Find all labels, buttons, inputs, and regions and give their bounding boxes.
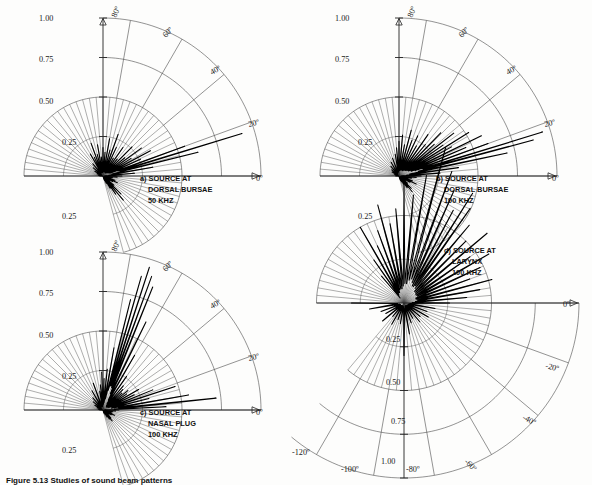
panel-a-caption-line1: a) SOURCE AT — [140, 174, 192, 183]
panel-b-rtick-1.00: 1.00 — [335, 14, 349, 23]
panel-d-caption-line2: LARYNX — [452, 257, 482, 266]
panel-d-rtick-1.00: 1.00 — [381, 457, 395, 466]
panel-d-rtick-0.25: 0.25 — [386, 335, 400, 344]
panel-b-rtick-0.50: 0.50 — [335, 97, 349, 106]
panel-c-caption-line1: c) SOURCE AT — [140, 408, 192, 417]
panel-b-caption-line1: b) SOURCE AT — [436, 174, 488, 183]
panel-a-caption-line3: 50 KHZ — [148, 196, 174, 205]
panel-b-rtick-0.25: 0.25 — [358, 138, 372, 147]
panel-c-rtick-0.25-lower: 0.25 — [62, 446, 76, 455]
panel-a-caption-line2: DORSAL BURSAE — [148, 185, 212, 194]
panel-d-atick-m120: -120º — [292, 448, 310, 457]
panel-c-caption-line2: NASAL PLUG — [148, 419, 196, 428]
panel-d-atick-0: 0º — [563, 300, 570, 309]
panel-c-rtick-1.00: 1.00 — [39, 248, 53, 257]
panel-b-rtick-0.75: 0.75 — [335, 55, 349, 64]
panel-a-atick-0: 0º — [256, 174, 263, 183]
panel-a-rtick-0.25: 0.25 — [62, 138, 76, 147]
panel-c-caption-line3: 100 KHZ — [148, 430, 178, 439]
panel-d-rtick-0.75: 0.75 — [391, 417, 405, 426]
panel-c-rtick-0.25: 0.25 — [62, 372, 76, 381]
panel-c-rtick-0.50: 0.50 — [39, 331, 53, 340]
figure-background — [0, 0, 592, 485]
figure-beam-patterns: 1.00 0.75 0.50 0.25 0.25 0º 20º 40º 60º … — [0, 0, 592, 485]
panel-d-caption-line3: 100 KHZ — [452, 268, 482, 277]
panel-a-rtick-0.50: 0.50 — [39, 97, 53, 106]
panel-d-atick-m100: -100º — [341, 465, 359, 474]
panel-d-atick-m80: -80º — [406, 465, 420, 474]
panel-c-rtick-0.75: 0.75 — [39, 289, 53, 298]
panel-c-atick-0: 0º — [256, 408, 263, 417]
figure-caption: Figure 5.13 Studies of sound beam patter… — [6, 476, 173, 485]
panel-d-caption-line1: d) SOURCE AT — [444, 246, 496, 255]
panel-a-rtick-1.00: 1.00 — [39, 14, 53, 23]
panel-a-rtick-0.25-lower: 0.25 — [62, 212, 76, 221]
panel-a-rtick-0.75: 0.75 — [39, 55, 53, 64]
panel-d-rtick-0.50: 0.50 — [386, 378, 400, 387]
panel-b-atick-0: 0º — [552, 174, 559, 183]
panel-b-rtick-0.25-lower: 0.25 — [358, 212, 372, 221]
